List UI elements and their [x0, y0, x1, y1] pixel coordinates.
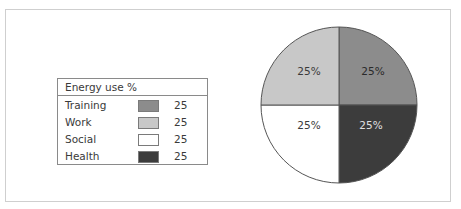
pie-slice-social	[261, 105, 339, 183]
pie-label-health: 25%	[359, 119, 382, 131]
pie-slice-health	[339, 105, 417, 183]
pie-chart: 25% 25% 25% 25%	[0, 0, 461, 209]
pie-label-social: 25%	[297, 119, 320, 131]
pie-label-work: 25%	[297, 65, 320, 77]
pie-label-training: 25%	[361, 65, 384, 77]
